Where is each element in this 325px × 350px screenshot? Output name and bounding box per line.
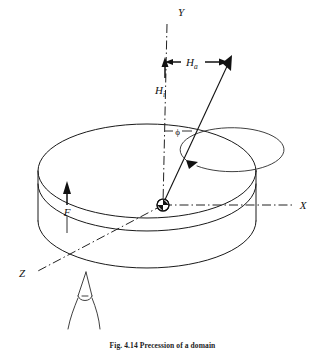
force-arrowhead [63, 181, 71, 194]
eyelid-left [68, 298, 78, 329]
y-axis-line [163, 24, 167, 204]
force-label: F [63, 206, 71, 218]
eye-cone-left [78, 272, 86, 296]
precession-arrowhead [186, 160, 198, 169]
eyelid-right [92, 298, 100, 329]
disc-bottom-rim [38, 221, 256, 268]
disc-inner-ledge-arc [38, 184, 256, 231]
applied-field-label: Ha [185, 56, 198, 71]
resultant-field-vector [163, 55, 232, 204]
origin-marker [157, 199, 169, 211]
eye-cone-right [86, 272, 92, 296]
disc-top-rim [38, 124, 256, 218]
internal-field-label: Hi [154, 84, 165, 99]
eye-ball [78, 296, 92, 300]
y-axis-label: Y [178, 6, 186, 18]
observer-eye [68, 272, 100, 329]
z-axis-line [36, 205, 163, 272]
figure-caption: Fig. 4.14 Precession of a domain [0, 340, 325, 350]
resultant-vector-line [163, 62, 229, 204]
disc-body [38, 124, 256, 268]
internal-field-vector-group [162, 57, 169, 78]
x-axis-label: X [299, 199, 308, 211]
z-axis-label: Z [19, 267, 26, 279]
phi-angle-label: ϕ [175, 127, 180, 137]
